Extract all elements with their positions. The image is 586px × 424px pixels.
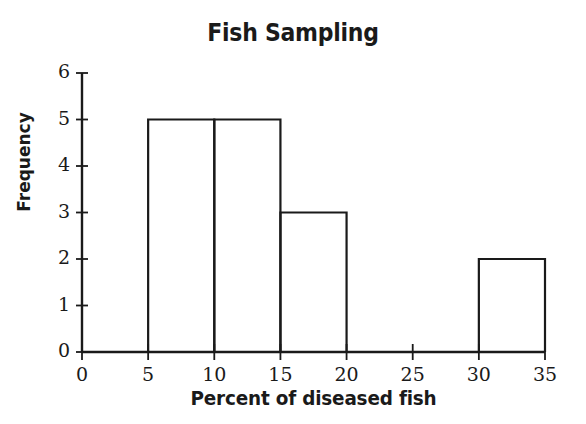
histogram-bar [148, 120, 214, 353]
histogram-bars-group [148, 120, 545, 353]
x-tick-label: 10 [194, 363, 234, 385]
y-tick-label: 1 [40, 293, 70, 315]
histogram-bar [280, 213, 346, 353]
tick-marks-group [76, 73, 545, 360]
histogram-bar [214, 120, 280, 353]
x-tick-label: 0 [62, 363, 102, 385]
y-tick-label: 4 [40, 153, 70, 175]
histogram-bar [479, 259, 545, 352]
y-tick-label: 5 [40, 107, 70, 129]
y-tick-label: 6 [40, 60, 70, 82]
y-tick-label: 2 [40, 246, 70, 268]
fish-sampling-histogram: Fish Sampling Frequency Percent of disea… [0, 0, 586, 424]
y-tick-label: 0 [40, 339, 70, 361]
plot-area [0, 0, 586, 424]
x-tick-label: 25 [393, 363, 433, 385]
x-tick-label: 35 [525, 363, 565, 385]
x-tick-label: 30 [459, 363, 499, 385]
x-tick-label: 20 [327, 363, 367, 385]
y-tick-label: 3 [40, 200, 70, 222]
x-tick-label: 15 [260, 363, 300, 385]
x-tick-label: 5 [128, 363, 168, 385]
